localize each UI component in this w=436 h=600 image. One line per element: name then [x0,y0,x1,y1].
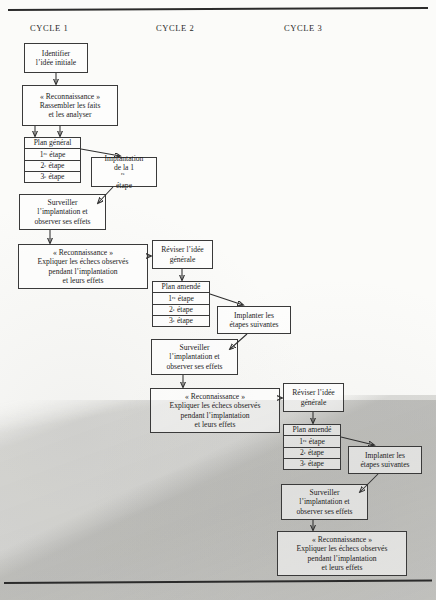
node-line: « Reconnaissance » [40,92,100,101]
top-rule [8,7,428,11]
node-line: l’implantation et [299,497,349,506]
node-line: Expliquer les échecs observés [170,401,261,410]
node-surveiller-cycle2: Surveiller l’implantation et observer se… [151,339,238,375]
figure-canvas: CYCLE 1 CYCLE 2 CYCLE 3 Identifier l’idé… [0,0,436,600]
node-line: Identifier [42,49,70,58]
node-reviser-idee-cycle3: Réviser l’idée générale [283,383,344,412]
node-surveiller-cycle3: Surveiller l’implantation et observer se… [281,484,368,520]
plan-header: Plan amendé [153,282,209,293]
node-line: Réviser l’idée [161,245,203,254]
node-line: « Reconnaissance » [312,535,372,544]
plan-step-1: 1re étape [25,149,80,160]
node-line: et leurs effets [322,563,363,572]
node-surveiller-cycle1: Surveiller l’implantation et observer se… [19,194,106,230]
node-line: Surveiller [180,343,210,352]
node-line: observer ses effets [35,217,91,226]
node-line: l’idée initiale [36,58,76,67]
plan-step-3: 3e étape [153,316,209,326]
node-line: « Reconnaissance » [53,248,113,257]
plan-step-3: 3e étape [25,172,80,182]
node-implanter-etapes-suivantes-cycle2: Implanter les étapes suivantes [217,306,291,334]
node-line-part: étape [114,181,134,190]
node-line: l’implantation et [37,207,87,216]
cycle-2-heading: CYCLE 2 [156,23,194,33]
node-line: et les analyser [48,110,91,119]
node-line: Surveiller [48,198,78,207]
node-implanter-etapes-suivantes-cycle3: Implanter les étapes suivantes [348,446,422,474]
node-reconnaissance-explication-cycle1: « Reconnaissance » Expliquer les échecs … [18,244,148,289]
node-line: et leurs effets [63,276,104,285]
step-word: étape [177,317,193,325]
plan-general-cycle1: Plan général 1re étape 2e étape 3e étape [24,137,81,183]
plan-header: Plan général [25,138,80,149]
node-line: étapes suivantes [229,320,278,329]
node-line: « Reconnaissance » [185,392,245,401]
step-word: étape [48,173,64,181]
node-line: Expliquer les échecs observés [297,544,388,553]
step-word: étape [309,438,325,446]
plan-step-1: 1re étape [284,436,340,447]
plan-step-1: 1re étape [153,293,209,304]
node-line: Expliquer les échecs observés [38,257,129,266]
step-word: étape [178,295,194,303]
node-line: Surveiller [310,488,340,497]
node-line: et leurs effets [195,420,236,429]
node-line: Implantation [105,154,144,163]
node-line: observer ses effets [297,507,353,516]
node-reconnaissance-cycle1: « Reconnaissance » Rassembler les faits … [22,85,118,126]
plan-amende-cycle2: Plan amendé 1re étape 2e étape 3e étape [152,281,210,327]
node-reconnaissance-explication-cycle2: « Reconnaissance » Expliquer les échecs … [150,388,280,433]
step-word: étape [48,162,64,170]
plan-step-2: 2e étape [25,161,80,172]
bottom-rule [4,579,432,584]
plan-step-2: 2e étape [153,305,209,316]
node-line: Rassembler les faits [40,101,101,110]
node-line: l’implantation et [169,352,219,361]
node-reconnaissance-explication-cycle3: « Reconnaissance » Expliquer les échecs … [277,531,407,576]
node-identifier-idee-initiale: Identifier l’idée initiale [24,43,88,73]
plan-step-3: 3e étape [284,459,340,469]
edge-plan-to-implanter-cycle2 [210,294,243,305]
node-line: Réviser l’idée [292,388,334,397]
ordinal-suffix: re [121,171,125,176]
plan-header: Plan amendé [284,425,340,436]
node-line: étapes suivantes [360,460,409,469]
node-reviser-idee-cycle2: Réviser l’idée générale [152,240,213,269]
node-implantation-premiere-etape: Implantation de la 1re étape [91,157,157,187]
step-word: étape [308,460,324,468]
node-line: Implanter les [234,311,274,320]
step-word: étape [177,306,193,314]
step-word: étape [308,449,324,457]
cycle-1-heading: CYCLE 1 [30,23,68,33]
node-line: Implanter les [365,451,405,460]
step-word: étape [49,151,65,159]
node-line: générale [170,255,196,264]
plan-step-2: 2e étape [284,448,340,459]
node-line: générale [301,398,327,407]
node-line: pendant l’implantation [181,411,250,420]
node-line: pendant l’implantation [49,267,118,276]
node-line: de la 1re étape [114,163,134,191]
edge-plan-to-implanter-cycle3 [341,437,374,445]
cycle-3-heading: CYCLE 3 [284,23,322,33]
plan-amende-cycle3: Plan amendé 1re étape 2e étape 3e étape [283,424,341,470]
node-line: observer ses effets [167,362,223,371]
node-line: pendant l’implantation [308,554,377,563]
